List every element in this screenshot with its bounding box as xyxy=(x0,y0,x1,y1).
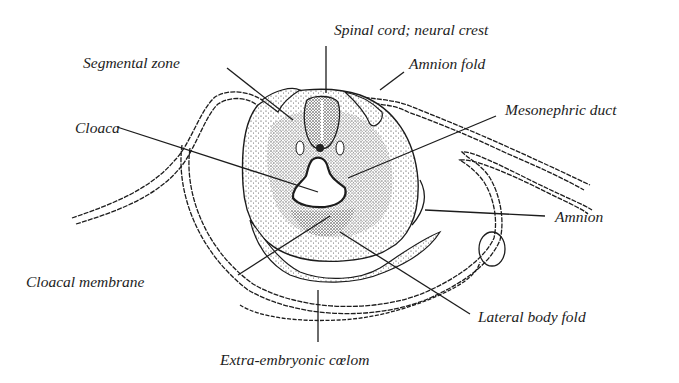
label-spinal-cord: Spinal cord; neural crest xyxy=(334,22,488,38)
label-mesonephric-duct: Mesonephric duct xyxy=(505,102,616,118)
label-cloacal-membrane: Cloacal membrane xyxy=(26,274,144,290)
label-segmental-zone: Segmental zone xyxy=(83,55,180,71)
label-amnion: Amnion xyxy=(555,209,603,225)
label-lateral-body-fold: Lateral body fold xyxy=(478,309,586,325)
label-extra-embryonic-coelom: Extra-embryonic cœlom xyxy=(220,352,369,368)
label-amnion-fold: Amnion fold xyxy=(409,56,485,72)
embryo-cross-section-figure: Spinal cord; neural crest Segmental zone… xyxy=(0,0,679,383)
label-cloaca: Cloaca xyxy=(75,120,120,136)
